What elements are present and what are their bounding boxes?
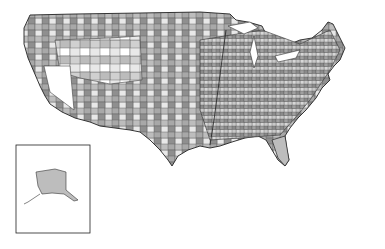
alaska-inset bbox=[16, 145, 90, 233]
map-svg bbox=[0, 0, 385, 249]
contiguous-us bbox=[24, 12, 345, 166]
us-choropleth-map bbox=[0, 0, 385, 249]
